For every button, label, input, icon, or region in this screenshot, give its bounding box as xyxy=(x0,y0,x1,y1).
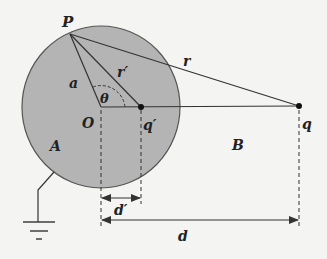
charge-q xyxy=(296,103,302,109)
label-A: A xyxy=(48,138,61,154)
label-r: r xyxy=(183,53,192,69)
label-q-prime: q′ xyxy=(143,117,157,133)
label-B: B xyxy=(231,137,244,153)
label-q: q xyxy=(302,116,312,132)
label-d: d xyxy=(178,228,188,244)
label-P: P xyxy=(61,13,74,31)
ground-wire xyxy=(38,172,54,222)
label-d-prime: d′ xyxy=(114,202,128,218)
label-O: O xyxy=(82,115,95,131)
label-a: a xyxy=(69,75,78,91)
label-theta: θ xyxy=(100,91,109,106)
image-charge-q-prime xyxy=(138,104,144,110)
image-charge-diagram: P a r′ r θ O q′ q A B d′ d xyxy=(0,0,327,259)
label-r-prime: r′ xyxy=(117,64,128,80)
